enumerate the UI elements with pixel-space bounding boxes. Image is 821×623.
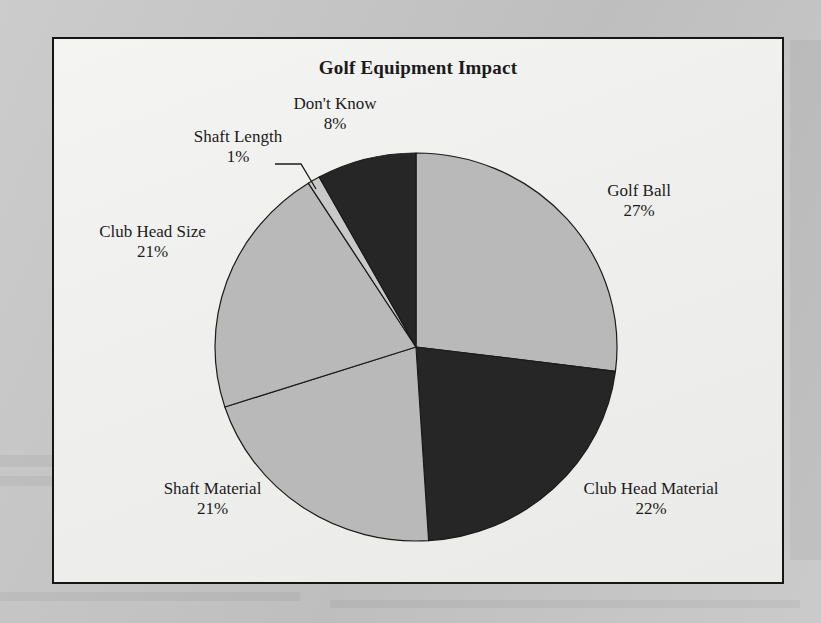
scan-artifact [790,40,821,560]
pie-label-name: Don't Know [250,94,420,114]
pie-label-name: Shaft Material [120,479,305,499]
pie-label-value: 21% [120,499,305,519]
pie-label-shaft-length: Shaft Length 1% [158,127,318,167]
scan-artifact [0,455,52,467]
scan-artifact [0,592,300,601]
pie-label-shaft-material: Shaft Material 21% [120,479,305,519]
pie-label-club-head-material: Club Head Material 22% [536,479,766,519]
pie-label-value: 1% [158,147,318,167]
pie-label-name: Club Head Size [60,222,245,242]
figure-frame: Golf Equipment Impact Don't Know 8% Shaf… [52,37,784,584]
pie-label-value: 27% [554,201,724,221]
scan-artifact [330,600,800,608]
pie-label-name: Golf Ball [554,181,724,201]
pie-label-value: 22% [536,499,766,519]
scanned-page: Golf Equipment Impact Don't Know 8% Shaf… [0,0,821,623]
scan-artifact [0,476,52,486]
pie-label-club-head-size: Club Head Size 21% [60,222,245,262]
pie-label-name: Shaft Length [158,127,318,147]
pie-label-golf-ball: Golf Ball 27% [554,181,724,221]
pie-label-name: Club Head Material [536,479,766,499]
pie-label-value: 21% [60,242,245,262]
